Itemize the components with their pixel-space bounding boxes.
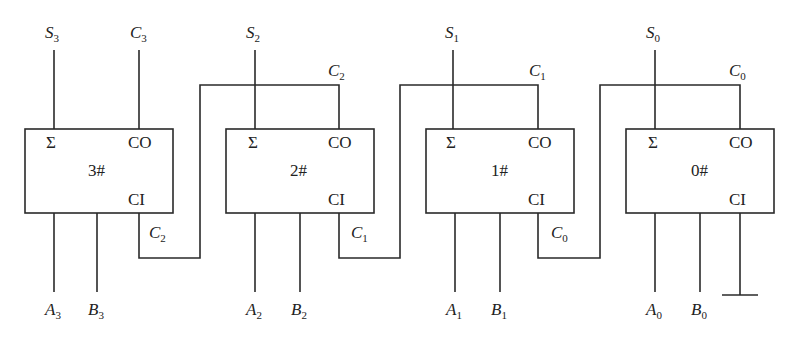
adder-0-sum-pin: Σ	[648, 133, 658, 152]
adder-0-ci-pin: CI	[729, 190, 746, 209]
c0-out-label: C0	[729, 61, 746, 82]
c1-out-label: C1	[529, 61, 546, 82]
c2-in-label: C2	[149, 223, 166, 244]
a2-label: A2	[245, 300, 262, 321]
s0-label: S0	[646, 23, 661, 44]
adder-3: Σ CO 3# CI S3 C3 A3 B3	[25, 23, 173, 321]
adder-1-co-pin: CO	[528, 133, 552, 152]
adder-2-name: 2#	[290, 161, 308, 180]
adder-0-name: 0#	[691, 161, 709, 180]
s3-label: S3	[45, 23, 60, 44]
b3-label: B3	[88, 300, 104, 321]
c1-in-label: C1	[351, 223, 368, 244]
b0-label: B0	[691, 300, 707, 321]
adder-1-ci-pin: CI	[528, 190, 545, 209]
adder-3-name: 3#	[88, 161, 106, 180]
c3-label: C3	[130, 23, 147, 44]
adder-2-co-pin: CO	[328, 133, 352, 152]
c0-in-label: C0	[551, 223, 568, 244]
a0-label: A0	[645, 300, 662, 321]
adder-1-sum-pin: Σ	[446, 133, 456, 152]
adder-1: Σ CO 1# CI S1 C1 A1 B1	[426, 23, 574, 321]
b1-label: B1	[491, 300, 507, 321]
adder-0: Σ CO 0# CI S0 C0 A0 B0	[626, 23, 774, 321]
adder-2: Σ CO 2# CI S2 C2 A2 B2	[226, 23, 374, 321]
ripple-carry-adder-diagram: Σ CO 3# CI S3 C3 A3 B3 C2 Σ CO 2# CI S2 …	[0, 0, 800, 346]
s1-label: S1	[445, 23, 459, 44]
adder-2-sum-pin: Σ	[248, 133, 258, 152]
b2-label: B2	[291, 300, 307, 321]
adder-1-name: 1#	[491, 161, 509, 180]
c2-out-label: C2	[328, 61, 345, 82]
adder-2-ci-pin: CI	[328, 190, 345, 209]
a1-label: A1	[445, 300, 462, 321]
a3-label: A3	[44, 300, 61, 321]
adder-3-sum-pin: Σ	[46, 133, 56, 152]
adder-3-co-pin: CO	[128, 133, 152, 152]
s2-label: S2	[246, 23, 260, 44]
adder-0-co-pin: CO	[729, 133, 753, 152]
adder-3-ci-pin: CI	[128, 190, 145, 209]
